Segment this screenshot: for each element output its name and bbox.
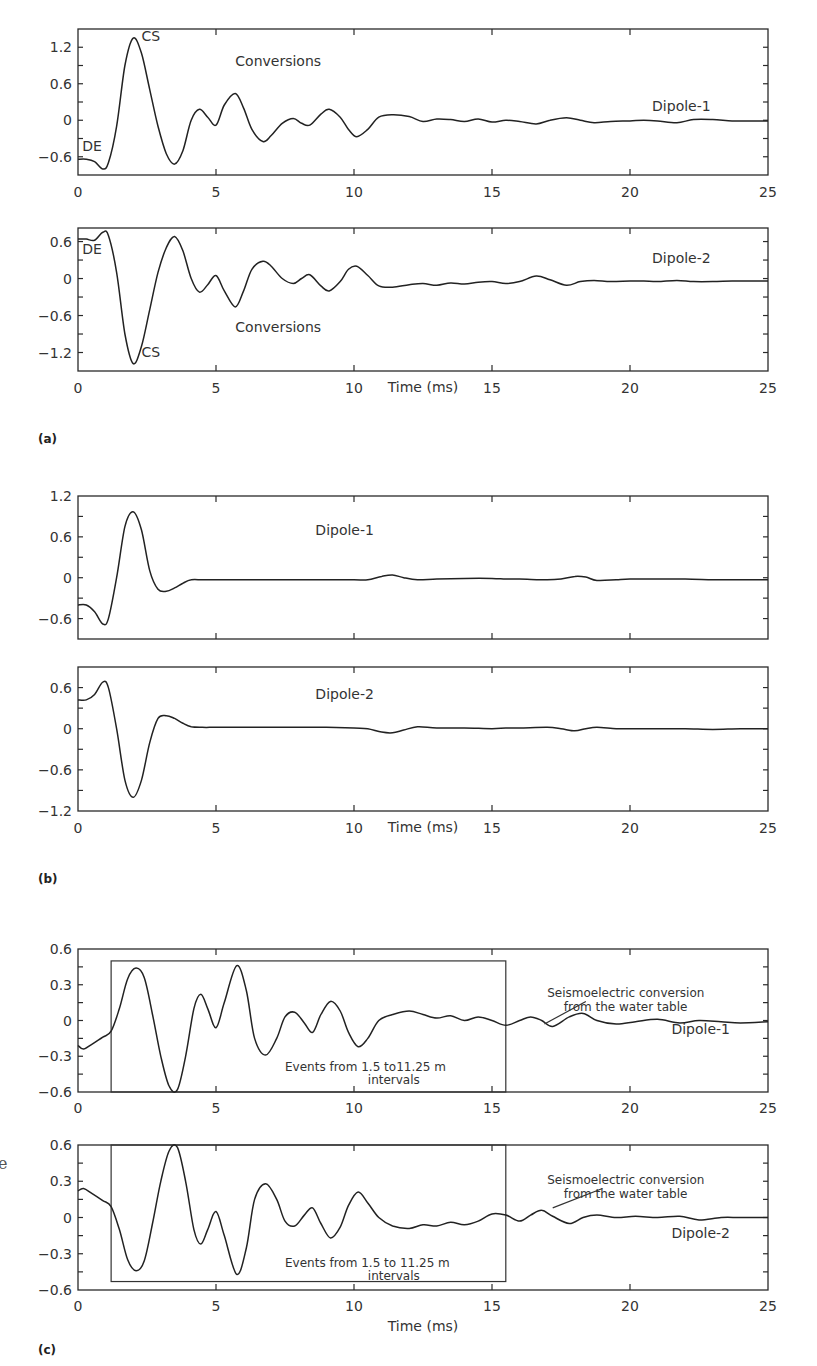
y-tick-label: 1.2 (50, 39, 72, 55)
x-tick-label: 5 (212, 1298, 221, 1314)
y-tick-label: 0.6 (50, 234, 72, 250)
y-tick-label: −0.6 (38, 611, 72, 627)
y-tick-label: 0 (63, 570, 72, 586)
y-tick-label: −0.6 (38, 1084, 72, 1100)
annotation-from: from the water table (564, 1187, 688, 1201)
x-tick-label: 20 (621, 184, 639, 200)
y-tick-label: 1.2 (50, 488, 72, 504)
x-tick-label: 15 (483, 184, 501, 200)
annotation-intervals: intervals (368, 1073, 420, 1087)
y-tick-label: −0.3 (38, 1246, 72, 1262)
panel-label-b: (b) (38, 872, 58, 886)
x-tick-label: 15 (483, 820, 501, 836)
x-tick-label: 5 (212, 380, 221, 396)
x-tick-label: 10 (345, 820, 363, 836)
y-tick-label: 0 (63, 1210, 72, 1226)
x-tick-label: 10 (345, 1100, 363, 1116)
plots-container: 05101520251.20.60−0.6CSDEConversionsDipo… (38, 28, 777, 1314)
x-tick-label: 0 (74, 1298, 83, 1314)
y-tick-label: −0.6 (38, 1282, 72, 1298)
y-tick-label: −1.2 (38, 345, 72, 361)
axes-frame (78, 667, 768, 811)
annotation-de: DE (82, 138, 102, 154)
annotation-seismoelectric: Seismoelectric conversion (547, 1173, 704, 1187)
annotation-dipole-2: Dipole-2 (671, 1225, 730, 1241)
annotation-seismoelectric: Seismoelectric conversion (547, 986, 704, 1000)
annotation-dipole-2: Dipole-2 (315, 686, 374, 702)
panel-label-c: (c) (38, 1343, 56, 1357)
y-tick-label: −0.6 (38, 762, 72, 778)
subplot-a1: 05101520251.20.60−0.6CSDEConversionsDipo… (38, 28, 777, 200)
x-tick-label: 10 (345, 1298, 363, 1314)
y-tick-label: 0.6 (50, 941, 72, 957)
annotation-conversions: Conversions (235, 53, 321, 69)
x-tick-label: 0 (74, 820, 83, 836)
annotation-dipole-2: Dipole-2 (652, 250, 711, 266)
x-tick-label: 5 (212, 820, 221, 836)
subplot-a2: 05101520250.60−0.6−1.2CSDEConversionsDip… (38, 228, 777, 396)
y-tick-label: 0 (63, 721, 72, 737)
trace-dipole-2 (78, 681, 768, 797)
x-tick-label: 25 (759, 380, 777, 396)
x-tick-label: 5 (212, 1100, 221, 1116)
trace-dipole-2 (78, 1145, 768, 1275)
annotation-conversions: Conversions (235, 319, 321, 335)
panel-label-a: (a) (38, 432, 57, 446)
y-tick-label: 0 (63, 271, 72, 287)
annotation-from: from the water table (564, 1000, 688, 1014)
x-tick-label: 0 (74, 1100, 83, 1116)
x-tick-label: 5 (212, 184, 221, 200)
x-tick-label: 15 (483, 1298, 501, 1314)
annotation-dipole-1: Dipole-1 (652, 98, 711, 114)
subplot-c1: 05101520250.60.30−0.3−0.6Dipole-1Events … (38, 941, 777, 1116)
annotation-events: Events from 1.5 to11.25 m (285, 1060, 446, 1074)
y-tick-label: 0.3 (50, 1173, 72, 1189)
y-tick-label: 0 (63, 112, 72, 128)
y-tick-label: 0.6 (50, 1137, 72, 1153)
stray-margin-glyph: e (0, 1154, 7, 1173)
x-tick-label: 20 (621, 1298, 639, 1314)
annotation-events: Events from 1.5 to 11.25 m (285, 1256, 450, 1270)
annotation-cs: CS (141, 28, 160, 44)
y-tick-label: −1.2 (38, 803, 72, 819)
y-tick-label: 0 (63, 1013, 72, 1029)
trace-dipole-1 (78, 512, 768, 625)
y-tick-label: 0.6 (50, 680, 72, 696)
x-axis-title-b: Time (ms) (387, 819, 459, 835)
annotation-dipole-1: Dipole-1 (671, 1021, 730, 1037)
seismoelectric-dipole-figure: e 05101520251.20.60−0.6CSDEConversionsDi… (0, 0, 817, 1366)
subplot-c2: 05101520250.60.30−0.3−0.6Dipole-2Events … (38, 1137, 777, 1314)
annotation-de: DE (82, 241, 102, 257)
x-tick-label: 15 (483, 1100, 501, 1116)
y-tick-label: 0.3 (50, 977, 72, 993)
x-axis-title-c: Time (ms) (387, 1318, 459, 1334)
x-tick-label: 25 (759, 1298, 777, 1314)
x-tick-label: 25 (759, 1100, 777, 1116)
x-tick-label: 0 (74, 184, 83, 200)
y-tick-label: −0.3 (38, 1048, 72, 1064)
x-tick-label: 25 (759, 184, 777, 200)
x-tick-label: 0 (74, 380, 83, 396)
x-tick-label: 20 (621, 820, 639, 836)
x-axis-title-a: Time (ms) (387, 379, 459, 395)
x-tick-label: 10 (345, 184, 363, 200)
annotation-cs: CS (141, 344, 160, 360)
axes-frame (78, 496, 768, 639)
x-tick-label: 25 (759, 820, 777, 836)
x-tick-label: 10 (345, 380, 363, 396)
y-tick-label: −0.6 (38, 308, 72, 324)
annotation-dipole-1: Dipole-1 (315, 522, 374, 538)
annotation-intervals: intervals (368, 1269, 420, 1283)
y-tick-label: 0.6 (50, 529, 72, 545)
x-tick-label: 15 (483, 380, 501, 396)
x-tick-label: 20 (621, 1100, 639, 1116)
y-tick-label: 0.6 (50, 76, 72, 92)
subplot-b1: 1.20.60−0.6Dipole-1 (38, 488, 768, 639)
y-tick-label: −0.6 (38, 149, 72, 165)
subplot-b2: 05101520250.60−0.6−1.2Dipole-2 (38, 667, 777, 836)
x-tick-label: 20 (621, 380, 639, 396)
